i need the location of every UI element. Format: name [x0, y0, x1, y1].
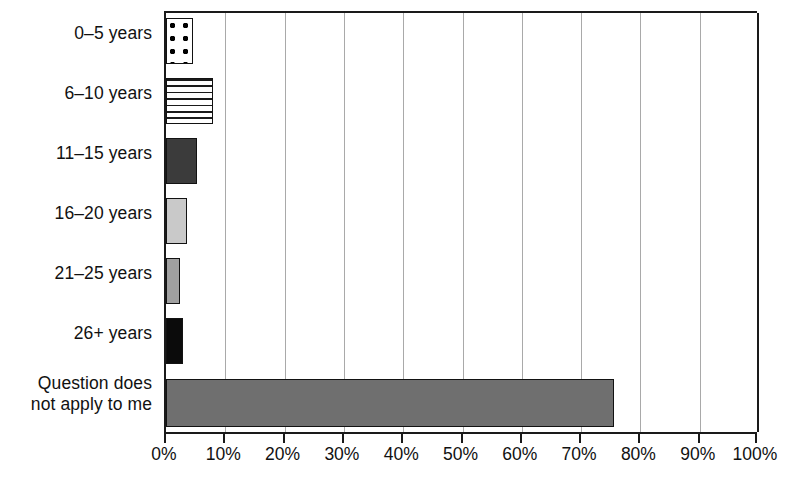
x-axis-ticks: [164, 434, 757, 443]
tick-30: [342, 434, 344, 443]
tick-10: [223, 434, 225, 443]
tick-0: [164, 434, 166, 443]
bar-1: [166, 78, 213, 124]
category-label-1: 6–10 years: [0, 83, 152, 104]
category-label-0: 0–5 years: [0, 23, 152, 44]
x-axis-label-90: 90%: [680, 443, 715, 465]
tick-70: [579, 434, 581, 443]
x-axis-label-80: 80%: [621, 443, 656, 465]
bar-6: [166, 379, 614, 427]
x-axis-label-40: 40%: [384, 443, 419, 465]
x-axis-label-30: 30%: [324, 443, 359, 465]
category-axis-labels: 0–5 years 6–10 years 11–15 years 16–20 y…: [0, 11, 158, 434]
category-label-4: 21–25 years: [0, 263, 152, 284]
x-axis-label-10: 10%: [206, 443, 241, 465]
bar-0: [166, 18, 193, 64]
bar-series: [166, 13, 757, 432]
x-axis-label-50: 50%: [443, 443, 478, 465]
x-axis-label-0: 0%: [151, 443, 176, 465]
tick-90: [698, 434, 700, 443]
category-label-5: 26+ years: [0, 323, 152, 344]
plot-area: [164, 11, 757, 434]
bar-2: [166, 138, 197, 184]
tick-100: [755, 434, 757, 443]
bar-5: [166, 318, 183, 364]
tick-50: [461, 434, 463, 443]
x-axis-labels: 0% 10% 20% 30% 40% 50% 60% 70% 80% 90% 1…: [0, 443, 789, 471]
category-label-2: 11–15 years: [0, 143, 152, 164]
x-axis-label-100: 100%: [733, 443, 778, 465]
tick-20: [283, 434, 285, 443]
category-label-3: 16–20 years: [0, 203, 152, 224]
horizontal-bar-chart: 0–5 years 6–10 years 11–15 years 16–20 y…: [0, 0, 789, 481]
tick-60: [520, 434, 522, 443]
bar-3: [166, 198, 187, 244]
tick-40: [401, 434, 403, 443]
bar-4: [166, 258, 180, 304]
gridline-100: [757, 13, 759, 432]
x-axis-label-60: 60%: [502, 443, 537, 465]
x-axis-label-20: 20%: [265, 443, 300, 465]
category-label-6: Question does not apply to me: [0, 373, 152, 415]
x-axis-label-70: 70%: [562, 443, 597, 465]
tick-80: [638, 434, 640, 443]
